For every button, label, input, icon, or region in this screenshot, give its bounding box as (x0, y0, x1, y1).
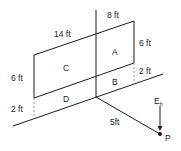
plane-rectangle (34, 21, 134, 98)
label-left-height: 6 ft (11, 73, 23, 83)
region-d: D (63, 94, 69, 104)
label-left-gap: 2 ft (11, 104, 23, 114)
label-right-gap: 2 ft (139, 66, 151, 76)
label-top-width: 8 ft (107, 10, 119, 20)
distance-line (96, 97, 160, 134)
point-p (158, 132, 162, 136)
geometry-diagram: 8 ft 14 ft 6 ft 6 ft 2 ft 2 ft 5ft A B C… (0, 0, 181, 151)
label-top-left-width: 14 ft (54, 29, 71, 39)
label-point: P (165, 133, 171, 143)
region-b: B (112, 77, 118, 87)
label-right-height: 6 ft (139, 38, 151, 48)
label-field: Eh (154, 96, 163, 107)
arrow-head-icon (158, 126, 163, 131)
label-distance: 5ft (110, 117, 120, 127)
region-c: C (63, 63, 69, 73)
ground-line (13, 74, 163, 126)
region-a: A (112, 47, 118, 57)
